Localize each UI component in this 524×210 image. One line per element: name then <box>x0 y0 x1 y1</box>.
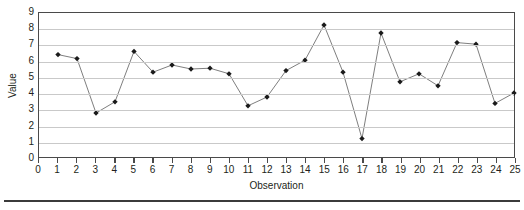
x-tick-label: 24 <box>490 164 501 176</box>
gridline <box>39 110 514 111</box>
x-tick-label: 22 <box>452 164 463 176</box>
x-tick-mark <box>362 158 363 163</box>
y-tick-label: 3 <box>20 104 34 114</box>
y-axis-title: Value <box>2 0 22 170</box>
line-chart-figure: Value 0123456789 01234567891011121314151… <box>0 0 524 210</box>
x-tick-label: 10 <box>223 164 234 176</box>
x-tick-label: 20 <box>414 164 425 176</box>
y-tick-label: 1 <box>20 137 34 147</box>
gridline <box>39 29 514 30</box>
data-point-marker <box>378 30 383 35</box>
x-tick-label: 0 <box>35 164 41 176</box>
gridline <box>39 94 514 95</box>
x-tick-label: 6 <box>150 164 156 176</box>
data-point-marker <box>397 79 402 84</box>
x-tick-label: 13 <box>280 164 291 176</box>
y-tick-label: 0 <box>20 153 34 163</box>
y-axis-title-text: Value <box>7 73 18 98</box>
y-tick-label: 2 <box>20 121 34 131</box>
x-tick-label: 11 <box>243 164 253 176</box>
x-tick-mark <box>57 158 58 163</box>
x-tick-mark <box>420 158 421 163</box>
x-tick-mark <box>324 158 325 163</box>
x-tick-label: 4 <box>112 164 118 176</box>
x-tick-label: 14 <box>300 164 311 176</box>
x-tick-mark <box>439 158 440 163</box>
x-tick-label: 12 <box>261 164 272 176</box>
plot-area <box>38 12 515 158</box>
y-axis-tick-labels: 0123456789 <box>20 12 34 158</box>
data-point-marker <box>416 71 421 76</box>
data-point-marker <box>435 83 440 88</box>
x-tick-mark <box>76 158 77 163</box>
data-point-marker <box>74 56 79 61</box>
x-tick-mark <box>210 158 211 163</box>
data-point-marker <box>226 71 231 76</box>
x-tick-label: 16 <box>338 164 349 176</box>
data-point-marker <box>55 52 60 57</box>
x-axis-title: Observation <box>38 180 515 191</box>
x-tick-mark <box>248 158 249 163</box>
y-tick-label: 5 <box>20 72 34 82</box>
x-tick-mark <box>381 158 382 163</box>
x-tick-label: 9 <box>207 164 213 176</box>
x-tick-mark <box>515 158 516 163</box>
data-series-line <box>39 13 514 157</box>
bottom-divider <box>4 200 520 202</box>
x-tick-mark <box>496 158 497 163</box>
y-tick-label: 4 <box>20 88 34 98</box>
x-tick-label: 3 <box>92 164 98 176</box>
x-tick-mark <box>191 158 192 163</box>
x-tick-label: 15 <box>319 164 330 176</box>
x-tick-label: 17 <box>357 164 368 176</box>
x-tick-label: 19 <box>395 164 406 176</box>
x-tick-mark <box>401 158 402 163</box>
y-tick-label: 9 <box>20 7 34 17</box>
data-point-marker <box>112 99 117 104</box>
data-point-marker <box>492 101 497 106</box>
data-point-marker <box>359 136 364 141</box>
x-axis-title-text: Observation <box>250 180 304 191</box>
x-tick-label: 1 <box>54 164 60 176</box>
gridline <box>39 143 514 144</box>
x-tick-mark <box>458 158 459 163</box>
x-tick-mark <box>229 158 230 163</box>
data-point-marker <box>340 70 345 75</box>
x-tick-mark <box>286 158 287 163</box>
x-tick-mark <box>133 158 134 163</box>
data-point-marker <box>169 62 174 67</box>
series-polyline <box>58 25 514 139</box>
data-point-marker <box>321 22 326 27</box>
x-tick-mark <box>38 158 39 163</box>
plot-inner <box>39 13 514 157</box>
x-tick-mark <box>152 158 153 163</box>
gridline <box>39 78 514 79</box>
x-tick-label: 7 <box>169 164 175 176</box>
x-tick-label: 8 <box>188 164 194 176</box>
x-tick-label: 25 <box>509 164 520 176</box>
data-point-marker <box>245 103 250 108</box>
gridline <box>39 62 514 63</box>
x-tick-mark <box>267 158 268 163</box>
x-tick-mark <box>305 158 306 163</box>
data-point-marker <box>188 66 193 71</box>
x-tick-mark <box>172 158 173 163</box>
gridline <box>39 127 514 128</box>
x-axis-tick-labels: 0123456789101112131415161718192021222324… <box>38 164 515 178</box>
x-tick-label: 2 <box>73 164 79 176</box>
data-point-marker <box>207 66 212 71</box>
x-tick-label: 18 <box>376 164 387 176</box>
x-tick-mark <box>477 158 478 163</box>
gridline <box>39 45 514 46</box>
x-tick-label: 5 <box>131 164 137 176</box>
x-tick-label: 21 <box>433 164 444 176</box>
x-tick-mark <box>343 158 344 163</box>
x-tick-mark <box>95 158 96 163</box>
x-tick-label: 23 <box>471 164 482 176</box>
y-tick-label: 8 <box>20 23 34 33</box>
y-tick-label: 7 <box>20 39 34 49</box>
data-point-marker <box>93 110 98 115</box>
y-tick-label: 6 <box>20 56 34 66</box>
x-tick-mark <box>114 158 115 163</box>
